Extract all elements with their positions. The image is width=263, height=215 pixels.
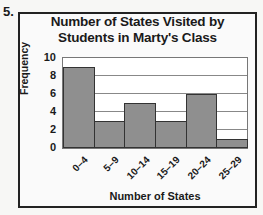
- y-tick-label: 8: [40, 70, 56, 81]
- y-tick-label: 0: [40, 142, 56, 153]
- x-axis-label: Number of States: [62, 190, 248, 202]
- bar-5–9: [94, 121, 126, 148]
- y-tick-label: 4: [40, 106, 56, 117]
- chart-title-line-2: Students in Marty's Class: [18, 30, 257, 46]
- y-tick-label: 6: [40, 88, 56, 99]
- bar-20–24: [186, 94, 218, 148]
- bar-10–14: [124, 103, 156, 148]
- bar-15–19: [155, 121, 187, 148]
- question-number: 5.: [3, 4, 14, 19]
- bar-25–29: [216, 139, 248, 148]
- y-tick-label: 2: [40, 124, 56, 135]
- chart-title: Number of States Visited by Students in …: [18, 14, 257, 46]
- bar-0–4: [63, 67, 95, 148]
- plot-area: [62, 57, 248, 149]
- y-axis-label: Frequency: [18, 42, 30, 95]
- y-tick-label: 10: [40, 52, 56, 63]
- chart-title-line-1: Number of States Visited by: [18, 14, 257, 30]
